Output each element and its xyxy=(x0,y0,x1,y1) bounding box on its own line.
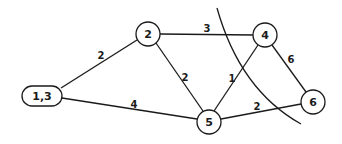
edge-4-5 xyxy=(214,45,258,111)
graph-svg: 1,3 2 4 5 6 2 4 3 2 1 6 2 xyxy=(0,0,342,144)
edge-2-5 xyxy=(156,43,203,111)
graph-diagram: 1,3 2 4 5 6 2 4 3 2 1 6 2 xyxy=(0,0,342,144)
edge-13-5 xyxy=(62,98,197,119)
edge-4-5-weight: 1 xyxy=(229,73,236,84)
edge-13-2 xyxy=(61,40,137,88)
edge-5-6-weight: 2 xyxy=(254,101,261,112)
edge-4-6 xyxy=(272,45,306,92)
node-2-label: 2 xyxy=(144,28,152,41)
edge-13-2-weight: 2 xyxy=(98,50,105,61)
node-4-label: 4 xyxy=(261,29,269,42)
edge-4-6-weight: 6 xyxy=(288,54,295,65)
edge-13-5-weight: 4 xyxy=(131,99,138,110)
node-1-3-label: 1,3 xyxy=(32,90,52,103)
node-6-label: 6 xyxy=(309,96,317,109)
node-5-label: 5 xyxy=(205,116,213,129)
edge-2-4 xyxy=(160,34,253,35)
edge-2-5-weight: 2 xyxy=(182,72,189,83)
edge-2-4-weight: 3 xyxy=(204,23,211,34)
